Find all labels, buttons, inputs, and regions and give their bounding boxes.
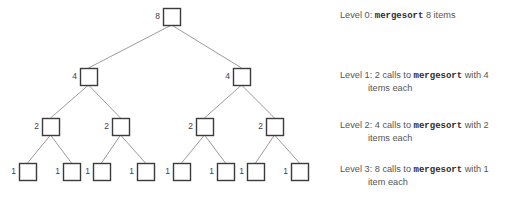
node-box xyxy=(113,119,130,136)
node-box xyxy=(20,164,37,181)
legend-text-run: Level 2: 4 calls to xyxy=(340,120,414,130)
legend-text-run: item each xyxy=(368,177,408,187)
node-box xyxy=(164,9,181,26)
legend-text-run: items each xyxy=(368,133,412,143)
node-count-label: 1 xyxy=(55,166,60,176)
node-count-label: 4 xyxy=(72,71,77,81)
mergesort-recursion-tree-figure: 844222211111111 Level 0: mergesort 8 ite… xyxy=(0,0,514,203)
legend-text-run: Level 1: 2 calls to xyxy=(340,70,414,80)
node-count-label: 1 xyxy=(165,166,170,176)
legend-line: items each xyxy=(368,83,412,93)
node-box xyxy=(234,69,251,86)
node-count-label: 2 xyxy=(258,121,263,131)
legend-text-run: Level 0: xyxy=(340,10,375,20)
legend-text-run: items each xyxy=(368,83,412,93)
code-token: mergesort xyxy=(375,11,424,21)
legend-line: Level 3: 8 calls to mergesort with 1 xyxy=(340,164,489,175)
legend-line: item each xyxy=(368,177,408,187)
node-count-label: 1 xyxy=(209,166,214,176)
node-count-label: 1 xyxy=(129,166,134,176)
node-count-label: 2 xyxy=(104,121,109,131)
node-count-label: 1 xyxy=(239,166,244,176)
node-box xyxy=(174,164,191,181)
legend-text-run: with 4 xyxy=(462,70,489,80)
legend-text-run: 8 items xyxy=(423,10,456,20)
node-box xyxy=(64,164,81,181)
legend-text-run: with 2 xyxy=(462,120,489,130)
legend-line: Level 2: 4 calls to mergesort with 2 xyxy=(340,120,489,131)
node-box xyxy=(43,119,60,136)
node-count-label: 8 xyxy=(155,11,160,21)
node-box xyxy=(94,164,111,181)
node-box xyxy=(267,119,284,136)
node-count-label: 4 xyxy=(225,71,230,81)
code-token: mergesort xyxy=(414,121,463,131)
node-count-label: 1 xyxy=(85,166,90,176)
node-box xyxy=(218,164,235,181)
legend-item: Level 0: mergesort 8 items xyxy=(340,10,456,21)
node-count-label: 1 xyxy=(283,166,288,176)
legend-text-run: Level 3: 8 calls to xyxy=(340,164,414,174)
node-box xyxy=(292,164,309,181)
node-count-label: 1 xyxy=(11,166,16,176)
legend-line: Level 1: 2 calls to mergesort with 4 xyxy=(340,70,489,81)
legend-line: items each xyxy=(368,133,412,143)
node-box xyxy=(248,164,265,181)
node-box xyxy=(197,119,214,136)
node-count-label: 2 xyxy=(34,121,39,131)
node-box xyxy=(81,69,98,86)
legend-text-run: with 1 xyxy=(462,164,489,174)
node-count-label: 2 xyxy=(188,121,193,131)
node-box xyxy=(138,164,155,181)
code-token: mergesort xyxy=(414,165,463,175)
code-token: mergesort xyxy=(414,71,463,81)
legend-line: Level 0: mergesort 8 items xyxy=(340,10,456,21)
